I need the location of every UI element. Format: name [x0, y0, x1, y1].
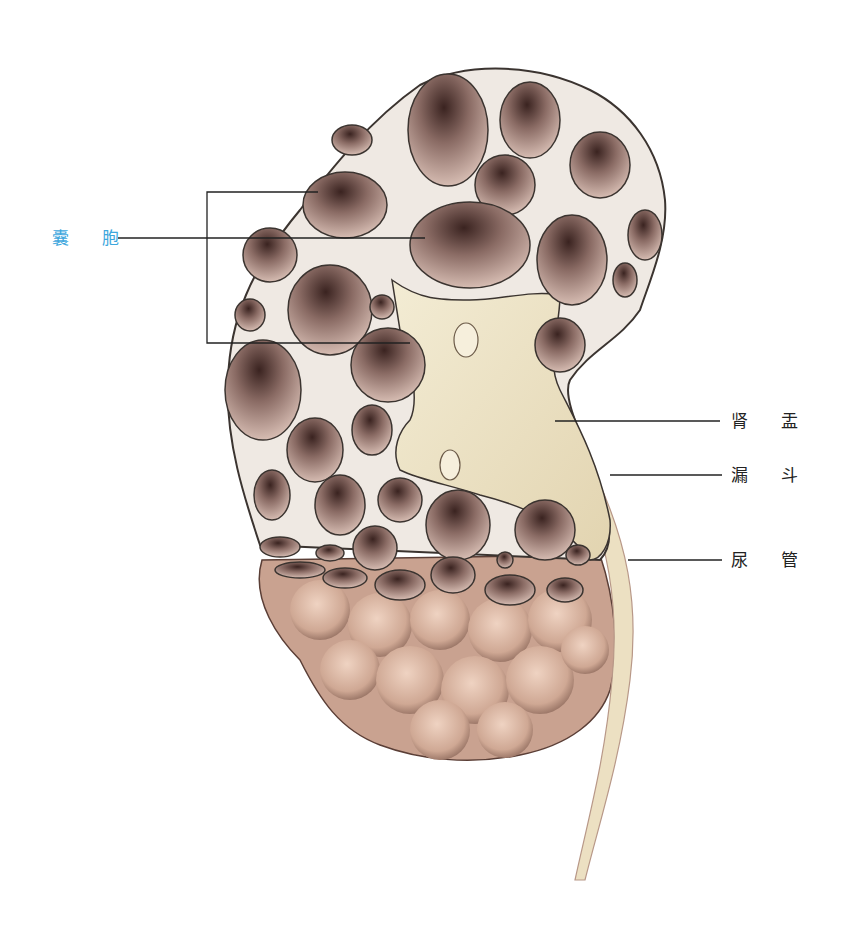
label-renal-pelvis: 肾 盂 [731, 413, 812, 430]
kidney-diagram [0, 0, 841, 941]
label-ureter: 尿 管 [731, 552, 812, 569]
label-cyst: 囊 胞 [52, 230, 133, 247]
label-infundibulum: 漏 斗 [731, 467, 812, 484]
